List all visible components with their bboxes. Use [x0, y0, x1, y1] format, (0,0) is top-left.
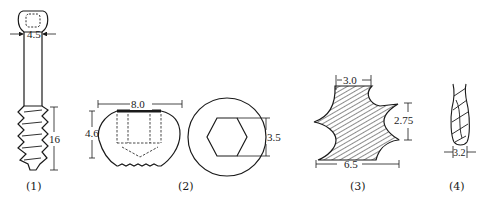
- dim-outer-width: 6.5: [344, 158, 358, 170]
- dim-thread-length: 16: [49, 133, 61, 145]
- diagram-canvas: 4.5 16 (1) 8.0 4.6 3.5 (2): [0, 0, 486, 198]
- dim-head-width: 8.0: [131, 98, 145, 110]
- dim-pitch: 2.75: [394, 114, 414, 126]
- caption-figure-4: (4): [449, 180, 465, 193]
- dim-head-height: 4.6: [85, 127, 99, 139]
- dim-shaft-diameter: 4.5: [27, 28, 41, 40]
- dim-top-width: 3.0: [343, 74, 357, 86]
- dim-hex-size: 3.5: [267, 131, 281, 143]
- caption-figure-1: (1): [26, 180, 42, 193]
- caption-figure-2: (2): [178, 180, 194, 193]
- figure-2-head-top-view: [188, 98, 270, 176]
- dim-drill-diameter: 3.2: [453, 147, 466, 158]
- hex-socket-icon: [207, 118, 247, 156]
- figure-3-thread-profile: [314, 86, 399, 160]
- caption-figure-3: (3): [350, 180, 366, 193]
